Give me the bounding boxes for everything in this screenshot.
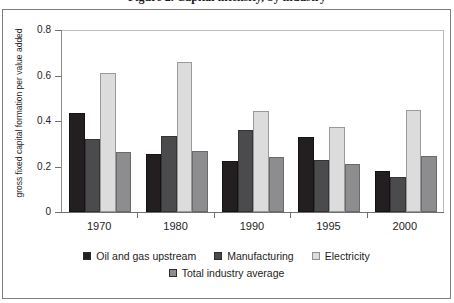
x-axis-tick xyxy=(137,213,138,218)
chart-legend: Oil and gas upstreamManufacturingElectri… xyxy=(2,247,451,281)
bar xyxy=(269,157,285,212)
legend-label: Total industry average xyxy=(182,267,285,279)
bar xyxy=(116,152,132,212)
y-axis-tick-label: 0.2 xyxy=(3,162,51,172)
bar xyxy=(390,177,406,212)
bar xyxy=(161,136,177,212)
legend-item: Oil and gas upstream xyxy=(83,250,196,262)
x-axis-tick-label: 1970 xyxy=(64,220,134,233)
y-axis-title: gross fixed capital formation per value … xyxy=(14,18,24,208)
bar xyxy=(314,160,330,212)
bar xyxy=(375,171,391,212)
legend-label: Oil and gas upstream xyxy=(96,250,196,262)
chart-figure: Figure 2. Capital intensity, by industry… xyxy=(0,0,454,303)
y-axis-tick-label: 0 xyxy=(3,207,51,217)
bar xyxy=(329,127,345,212)
bar xyxy=(238,130,254,212)
y-axis-tick-label: 0.4 xyxy=(3,116,51,126)
legend-row-secondary: Total industry average xyxy=(2,264,451,281)
bar xyxy=(253,111,269,212)
plot-area xyxy=(61,30,444,213)
x-axis-tick xyxy=(290,213,291,218)
x-axis-tick xyxy=(214,213,215,218)
legend-item: Manufacturing xyxy=(214,250,294,262)
bar xyxy=(345,164,361,212)
legend-label: Electricity xyxy=(325,250,370,262)
bar xyxy=(192,151,208,212)
legend-row-primary: Oil and gas upstreamManufacturingElectri… xyxy=(2,247,451,264)
bar xyxy=(421,156,437,212)
chart-title: Figure 2. Capital intensity, by industry xyxy=(0,0,454,4)
bar xyxy=(100,73,116,212)
x-axis-tick xyxy=(367,213,368,218)
legend-swatch-icon xyxy=(312,252,320,260)
legend-label: Manufacturing xyxy=(227,250,294,262)
legend-item: Total industry average xyxy=(169,267,285,279)
bar xyxy=(177,62,193,212)
bar xyxy=(146,154,162,212)
x-axis-tick-label: 2000 xyxy=(370,220,440,233)
y-axis-tick-label: 0.8 xyxy=(3,25,51,35)
legend-item: Electricity xyxy=(312,250,370,262)
legend-swatch-icon xyxy=(214,252,222,260)
y-axis-tick-label: 0.6 xyxy=(3,71,51,81)
bar xyxy=(69,113,85,212)
bar xyxy=(406,110,422,212)
bar xyxy=(222,161,238,212)
bar xyxy=(85,139,101,212)
x-axis-tick-label: 1980 xyxy=(141,220,211,233)
bar xyxy=(298,137,314,212)
x-axis-tick-label: 1995 xyxy=(293,220,363,233)
legend-swatch-icon xyxy=(83,252,91,260)
legend-swatch-icon xyxy=(169,269,177,277)
x-axis-tick-label: 1990 xyxy=(217,220,287,233)
